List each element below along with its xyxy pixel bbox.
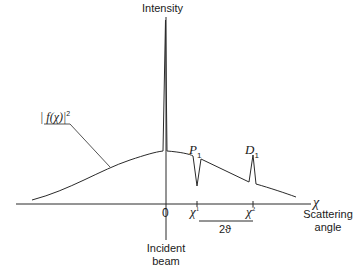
tick-chi1-label: χ1 — [190, 205, 199, 218]
x-axis-label: Scattering angle — [298, 209, 358, 233]
origin-label: 0 — [162, 207, 169, 219]
incident-beam-label: Incident beam — [136, 243, 196, 267]
curve-label-leader — [44, 124, 110, 167]
intensity-curve — [32, 20, 296, 200]
curve-label-text: | f(χ)| — [40, 110, 66, 124]
interval-label: 2ϑ — [219, 224, 231, 235]
y-axis-label: Intensity — [142, 3, 183, 14]
curve-label-sup: 2 — [66, 110, 70, 117]
peak-d1-label: D1 — [245, 143, 259, 160]
peak-p1-label: P1 — [189, 143, 201, 160]
tick-chi2-label: χ2 — [246, 205, 255, 218]
curve-label: | f(χ)|2 — [40, 110, 70, 123]
